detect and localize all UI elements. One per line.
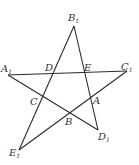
label-d: D [44, 62, 53, 73]
segment-e1-b1 [19, 26, 74, 150]
label-c: C [30, 96, 38, 107]
label-c1: C1 [121, 61, 132, 73]
label-b1: B1 [67, 12, 79, 24]
label-b: B [64, 116, 72, 127]
label-a1: A1 [0, 63, 12, 75]
label-d1: D1 [97, 131, 110, 143]
segment-a1-c1 [8, 71, 127, 75]
segment-b1-d1 [74, 26, 98, 130]
segment-c1-e1 [19, 71, 127, 150]
label-e: E [83, 62, 92, 73]
pentagram-diagram: B1 A1 C1 D1 E1 D E C A B [0, 0, 139, 165]
label-e1: E1 [8, 147, 20, 159]
label-a: A [92, 95, 100, 106]
